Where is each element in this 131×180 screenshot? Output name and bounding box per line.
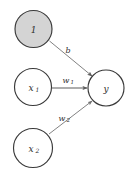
node-y-label: y — [102, 84, 109, 94]
edge-label-w2-group: w 2 — [59, 114, 71, 123]
node-x1-subscript: 1 — [36, 86, 40, 93]
edge-label-w1-subscript: 1 — [71, 79, 75, 85]
edge-label-w2-subscript: 2 — [66, 117, 71, 123]
edges-group — [49, 41, 92, 134]
node-x1-label: x — [28, 83, 33, 93]
node-x2-label: x — [28, 144, 33, 154]
edge-bias-to-y — [50, 41, 93, 76]
edge-label-w1: w — [63, 76, 70, 85]
edge-label-w2: w — [59, 114, 66, 123]
edge-labels-group: b w 1 w 2 — [59, 46, 74, 123]
neuron-diagram: 1 x 1 x 2 y b w 1 w 2 — [0, 0, 131, 180]
node-bias-label: 1 — [31, 25, 37, 35]
edge-label-w1-group: w 1 — [63, 76, 74, 85]
node-x2-subscript: 2 — [35, 147, 40, 154]
diagram-canvas: 1 x 1 x 2 y b w 1 w 2 — [0, 0, 131, 180]
edge-x2-to-y — [49, 101, 92, 134]
edge-label-bias: b — [65, 46, 70, 55]
